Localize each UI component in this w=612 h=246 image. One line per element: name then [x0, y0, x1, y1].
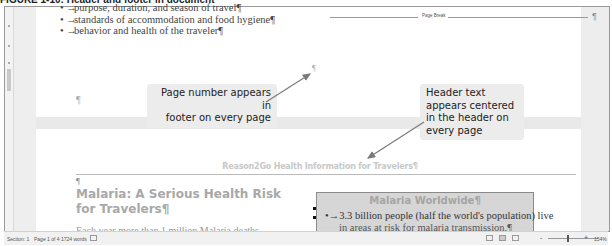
zoom-in-button[interactable]: + — [584, 234, 588, 241]
sidebar-title: Malaria Worldwide¶ — [317, 195, 533, 206]
zoom-slider[interactable] — [548, 238, 598, 239]
word-count[interactable]: 1724 words — [61, 236, 87, 242]
section-indicator[interactable]: Section: 1 — [7, 236, 29, 242]
sidebar-textbox[interactable]: Malaria Worldwide¶ •→3.3 billion people … — [316, 192, 534, 234]
pilcrow-mark: ¶ — [76, 176, 80, 186]
section-heading: Malaria: A Serious Health Risk for Trave… — [76, 187, 286, 217]
print-layout-icon[interactable] — [499, 235, 506, 241]
sidebar-line: •→3.3 billion people (half the world's p… — [325, 210, 553, 221]
proofing-icon[interactable] — [90, 235, 97, 241]
document-header-text[interactable]: Reason2Go Health Information for Travele… — [200, 162, 440, 171]
zoom-out-button[interactable]: - — [540, 234, 542, 241]
page-indicator[interactable]: Page 1 of 4 — [34, 236, 60, 242]
zoom-slider-thumb[interactable] — [567, 235, 569, 242]
status-bar: Section: 1 Page 1 of 4 1724 words - + 15… — [4, 231, 608, 245]
zoom-level[interactable]: 154% — [594, 236, 607, 242]
read-mode-icon[interactable] — [486, 235, 493, 241]
web-layout-icon[interactable] — [512, 235, 519, 241]
header-divider — [76, 174, 576, 175]
